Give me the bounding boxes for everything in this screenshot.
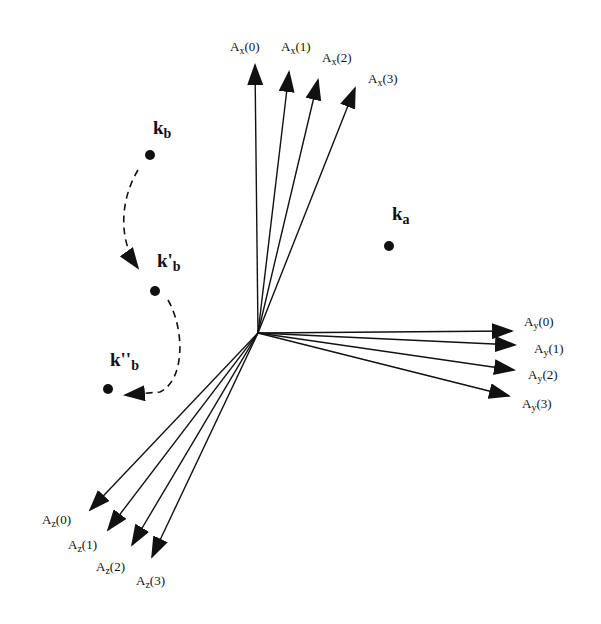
trajectory-path2: [125, 300, 180, 395]
vector-ax-0: [255, 65, 258, 333]
label-ay-0: Ay(0): [524, 315, 554, 331]
points: [103, 150, 394, 394]
point-kppb: [103, 384, 113, 394]
trajectory-path1: [124, 170, 138, 268]
label-az-0: Az(0): [42, 513, 71, 529]
label-ka: ka: [392, 204, 410, 227]
label-kb: kb: [153, 118, 171, 141]
label-az-3: Az(3): [136, 574, 165, 590]
label-kppb: k''b: [110, 350, 139, 373]
point-ka: [384, 241, 394, 251]
label-ax-3: Ax(3): [368, 72, 398, 88]
label-ax-2: Ax(2): [322, 51, 352, 67]
point-kb: [145, 150, 155, 160]
vector-az-3: [152, 333, 258, 557]
vector-ay-0: [258, 331, 512, 333]
vector-ax-2: [258, 80, 318, 333]
label-az-1: Az(1): [68, 538, 97, 554]
point-kpb: [150, 286, 160, 296]
label-ax-0: Ax(0): [230, 40, 260, 56]
vector-az-2: [132, 333, 258, 545]
label-kpb: k'b: [157, 251, 181, 274]
label-ay-2: Ay(2): [528, 368, 558, 384]
label-ax-1: Ax(1): [281, 40, 311, 56]
label-az-2: Az(2): [96, 560, 125, 576]
label-ay-1: Ay(1): [534, 342, 564, 358]
label-ay-3: Ay(3): [522, 397, 552, 413]
vector-diagram: [0, 0, 601, 624]
